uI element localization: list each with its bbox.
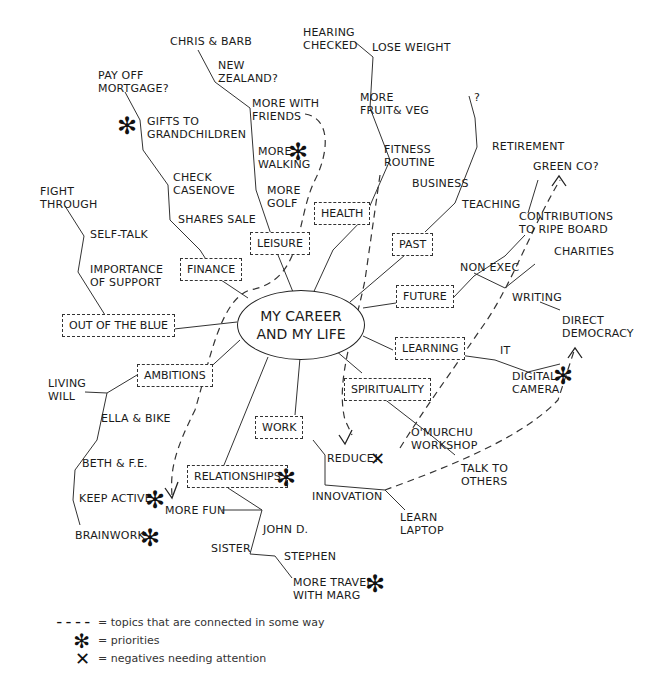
leaf-more-travel-with-marg: MORE TRAVEL WITH MARG	[293, 576, 373, 602]
leaf-omurchu-workshop: O'MURCHU WORKSHOP	[411, 426, 478, 452]
leaf-green-co: GREEN CO?	[533, 160, 599, 173]
leaf-importance-of-support: IMPORTANCE OF SUPPORT	[90, 263, 163, 289]
priority-icon: ✻	[365, 574, 385, 594]
legend-text: = priorities	[98, 632, 159, 650]
priority-icon: ✻	[288, 142, 308, 162]
priority-icon: ✻	[553, 366, 573, 386]
leaf-keep-active: KEEP ACTIVE	[79, 492, 152, 505]
leaf-sister: SISTER	[211, 542, 251, 555]
leaf-chris-barb: CHRIS & BARB	[170, 35, 252, 48]
leaf-more-fruit-veg: MORE FRUIT& VEG	[360, 91, 429, 117]
leaf-it: IT	[500, 344, 510, 357]
priority-icon: ✻	[117, 116, 137, 136]
branch-future: FUTURE	[396, 285, 454, 308]
legend-text: = topics that are connected in some way	[98, 614, 325, 632]
priority-icon: ✻	[140, 528, 160, 548]
leaf-lose-weight: LOSE WEIGHT	[372, 41, 451, 54]
leaf-talk-to-others: TALK TO OTHERS	[461, 462, 508, 488]
leaf-learn-laptop: LEARN LAPTOP	[400, 511, 444, 537]
central-topic: MY CAREER AND MY LIFE	[237, 290, 365, 360]
leaf-gifts-to-grandchildren: GIFTS TO GRANDCHILDREN	[147, 115, 246, 141]
branch-finance: FINANCE	[180, 258, 242, 281]
leaf-fitness-routine: FITNESS ROUTINE	[384, 143, 435, 169]
leaf-more-with-friends: MORE WITH FRIENDS	[252, 97, 319, 123]
leaf-contributions-ripe-board: CONTRIBUTIONS TO RIPE BOARD	[519, 210, 613, 236]
branch-health: HEALTH	[314, 202, 370, 225]
leaf-innovation: INNOVATION	[312, 490, 383, 503]
branch-out-of-the-blue: OUT OF THE BLUE	[62, 314, 175, 337]
leaf-new-zealand: NEW ZEALAND?	[218, 59, 278, 85]
legend-row-negatives: ✕ = negatives needing attention	[30, 650, 325, 668]
branch-learning: LEARNING	[395, 337, 465, 360]
legend: – – – – = topics that are connected in s…	[30, 614, 325, 668]
leaf-fight-through: FIGHT THROUGH	[40, 185, 98, 211]
leaf-direct-democracy: DIRECT DEMOCRACY	[562, 314, 634, 340]
leaf-brainwork: BRAINWORK	[75, 529, 145, 542]
leaf-john-d: JOHN D.	[263, 523, 308, 536]
leaf-teaching: TEACHING	[462, 198, 521, 211]
leaf-more-golf: MORE GOLF	[267, 184, 301, 210]
negative-icon: ✕	[370, 450, 385, 468]
leaf-self-talk: SELF-TALK	[90, 228, 148, 241]
leaf-charities: CHARITIES	[554, 245, 614, 258]
branch-leisure: LEISURE	[250, 232, 310, 255]
leaf-shares-sale: SHARES SALE	[178, 213, 256, 226]
leaf-check-casenove: CHECK CASENOVE	[173, 171, 235, 197]
leaf-beth-fe: BETH & F.E.	[82, 457, 148, 470]
mind-map-canvas: MY CAREER AND MY LIFE HEALTH LEISURE FIN…	[0, 0, 646, 682]
leaf-non-exec: NON EXEC	[460, 261, 519, 274]
leaf-writing: WRITING	[512, 291, 562, 304]
leaf-ella-bike: ELLA & BIKE	[101, 412, 171, 425]
branch-work: WORK	[255, 416, 303, 439]
legend-text: = negatives needing attention	[98, 650, 266, 668]
branch-past: PAST	[392, 233, 433, 256]
branch-spirituality: SPIRITUALITY	[344, 378, 431, 401]
leaf-more-fun: MORE FUN	[165, 504, 225, 517]
leaf-retirement: RETIREMENT	[492, 140, 565, 153]
branch-ambitions: AMBITIONS	[137, 364, 213, 387]
leaf-question: ?	[474, 91, 480, 104]
leaf-business: BUSINESS	[412, 177, 469, 190]
leaf-pay-off-mortgage: PAY OFF MORTGAGE?	[98, 69, 169, 95]
leaf-living-will: LIVING WILL	[48, 377, 86, 403]
priority-icon: ✻	[145, 490, 165, 510]
branch-relationships: RELATIONSHIPS	[187, 465, 288, 488]
priority-icon: ✻	[276, 468, 296, 488]
leaf-hearing-checked: HEARING CHECKED	[303, 26, 358, 52]
leaf-stephen: STEPHEN	[284, 550, 336, 563]
negative-icon: ✕	[30, 650, 98, 668]
